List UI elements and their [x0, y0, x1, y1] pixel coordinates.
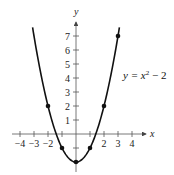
svg-text:3: 3	[116, 138, 121, 149]
svg-text:4: 4	[130, 138, 135, 149]
y-axis-label: y	[73, 6, 79, 17]
svg-text:5: 5	[65, 59, 70, 70]
data-point	[74, 160, 79, 165]
svg-text:−4: −4	[15, 138, 26, 149]
data-points	[46, 34, 121, 165]
svg-text:−3: −3	[29, 138, 40, 149]
svg-text:7: 7	[65, 31, 70, 42]
svg-text:4: 4	[65, 73, 70, 84]
data-point	[116, 34, 121, 39]
data-point	[88, 146, 93, 151]
equation-label: y = x2 − 2	[122, 69, 166, 81]
svg-text:−2: −2	[43, 138, 54, 149]
data-point	[102, 104, 107, 109]
svg-text:2: 2	[102, 138, 107, 149]
plot-area: −4−3−22341234567 x y y = x2 − 2	[0, 0, 174, 175]
data-point	[46, 104, 51, 109]
svg-text:3: 3	[65, 87, 70, 98]
data-point	[60, 146, 65, 151]
svg-text:2: 2	[65, 101, 70, 112]
x-axis-label: x	[149, 128, 155, 139]
svg-text:6: 6	[65, 45, 70, 56]
svg-text:1: 1	[65, 115, 70, 126]
parabola-graph: −4−3−22341234567 x y y = x2 − 2	[0, 0, 174, 175]
